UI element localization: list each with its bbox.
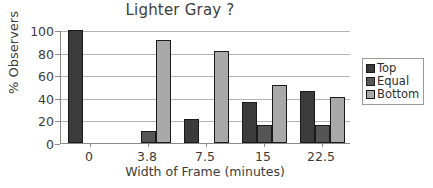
chart-title: Lighter Gray ? [0,1,360,19]
bar-equal-3.8 [141,131,156,143]
x-tick-label: 0 [85,149,93,164]
y-tick-mark [55,31,60,32]
bar-equal-15 [257,125,272,143]
bar-group [300,31,345,143]
bar-equal-22.5 [315,125,330,143]
x-tick-label: 7.5 [195,149,215,164]
y-tick-label: 0 [8,137,54,152]
y-axis-tick-labels: 020406080100 [0,0,54,188]
x-tick-mark [206,143,207,147]
y-tick-label: 80 [8,46,54,61]
bar-group [242,31,287,143]
legend-swatch-icon [366,77,375,86]
legend-item-bottom[interactable]: Bottom [366,88,419,101]
y-tick-label: 100 [8,24,54,39]
y-tick-mark [55,99,60,100]
x-tick-label: 22.5 [307,149,335,164]
plot-area [60,31,350,144]
bar-top-0 [68,30,83,143]
y-tick-label: 20 [8,114,54,129]
legend-label: Bottom [377,88,419,101]
y-tick-mark [55,54,60,55]
bar-bottom-7.5 [214,51,229,143]
chart-figure: Lighter Gray ? % Observers 020406080100 … [0,0,433,188]
y-tick-label: 40 [8,91,54,106]
y-tick-mark [55,121,60,122]
x-tick-mark [264,143,265,147]
bar-bottom-15 [272,85,287,143]
chart-legend: TopEqualBottom [362,58,424,105]
legend-swatch-icon [366,64,375,73]
x-tick-mark [322,143,323,147]
y-tick-label: 60 [8,69,54,84]
x-tick-mark [148,143,149,147]
y-tick-mark [55,76,60,77]
bar-group [126,31,171,143]
bar-top-15 [242,102,257,143]
bar-group [184,31,229,143]
bar-bottom-3.8 [156,40,171,143]
bar-bottom-22.5 [330,97,345,143]
x-tick-label: 15 [255,149,271,164]
y-tick-mark [55,144,60,145]
bar-top-7.5 [184,119,199,143]
x-tick-label: 3.8 [137,149,157,164]
x-tick-mark [90,143,91,147]
bar-top-22.5 [300,91,315,143]
bar-group [68,31,113,143]
x-axis-label: Width of Frame (minutes) [60,164,350,179]
legend-swatch-icon [366,90,375,99]
